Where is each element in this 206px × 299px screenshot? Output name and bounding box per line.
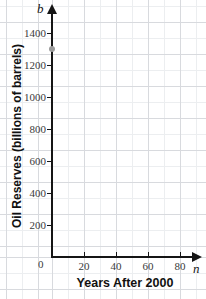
y-axis-title-container: Oil Reserves (billions of barrels)	[11, 16, 27, 256]
y-axis-tick-label: 1000	[24, 92, 46, 103]
grid-minor-lines	[0, 0, 206, 299]
y-axis-tick	[47, 33, 53, 34]
oil-reserves-scatter-chart: b n 200400600800100012001400 20406080 0 …	[0, 0, 206, 299]
y-axis-tick	[47, 193, 53, 194]
x-axis-tick-label: 60	[133, 261, 163, 272]
x-axis-tick	[148, 252, 149, 258]
y-axis-title: Oil Reserves (billions of barrels)	[11, 16, 23, 256]
x-axis-tick-label: 80	[165, 261, 195, 272]
y-axis-tick	[47, 97, 53, 98]
grid-major-lines	[0, 0, 206, 299]
y-axis-tick	[47, 129, 53, 130]
data-point	[49, 46, 55, 52]
origin-tick-label: 0	[38, 259, 44, 270]
y-axis-tick-label: 400	[30, 188, 47, 199]
x-axis-tick	[84, 252, 85, 258]
x-axis-tick	[52, 252, 53, 258]
y-axis-tick-label: 800	[30, 124, 47, 135]
y-axis-tick-label: 600	[30, 156, 47, 167]
y-axis-tick-label: 200	[30, 220, 47, 231]
y-axis-tick	[47, 65, 53, 66]
x-axis-tick	[180, 252, 181, 258]
x-axis-title: Years After 2000	[44, 277, 206, 290]
y-axis-variable-label: b	[37, 2, 44, 15]
y-axis-tick-label: 1400	[24, 28, 46, 39]
x-axis-tick-label: 40	[101, 261, 131, 272]
y-axis-tick	[47, 161, 53, 162]
x-axis-tick	[116, 252, 117, 258]
y-axis-tick-label: 1200	[24, 60, 46, 71]
x-axis-tick-label: 20	[69, 261, 99, 272]
y-axis-tick	[47, 225, 53, 226]
x-axis-line	[52, 256, 194, 258]
y-axis-arrow-icon	[47, 4, 57, 14]
